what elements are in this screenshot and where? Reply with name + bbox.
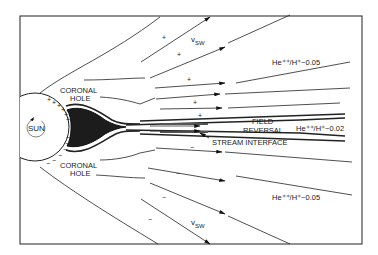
ratio-top-label: He⁺⁺/H⁺~0.05	[272, 58, 320, 67]
svg-text:+: +	[52, 99, 56, 106]
vsw-bottom-label: vSW	[191, 218, 205, 229]
stream-interface-label: STREAM INTERFACE	[212, 138, 287, 147]
svg-text:−: −	[63, 146, 67, 153]
svg-text:−: −	[58, 152, 62, 159]
ratio-bottom-label: He⁺⁺/H⁺~0.05	[272, 193, 320, 202]
coronal-hole-top-label-2: HOLE	[70, 94, 90, 103]
svg-text:−: −	[52, 157, 56, 164]
svg-text:−: −	[190, 144, 194, 151]
svg-text:+: +	[177, 51, 181, 58]
field-reversal-label: FIELD	[252, 117, 274, 126]
svg-text:+: +	[66, 116, 70, 123]
svg-text:−: −	[148, 216, 152, 223]
svg-text:+: +	[187, 76, 191, 83]
sun-label: SUN	[28, 124, 45, 133]
field-reversal-label-2: REVERSAL	[243, 126, 283, 135]
svg-text:+: +	[193, 99, 197, 106]
ratio-mid-label: He⁺⁺/H⁺~0.02	[296, 124, 344, 133]
helmet-streamer	[67, 108, 126, 146]
svg-text:−: −	[162, 194, 166, 201]
svg-text:+: +	[47, 96, 51, 103]
vsw-top-label: vSW	[191, 35, 205, 46]
solar-wind-diagram: + + + + + + + + + + + − − − − − − − − − …	[0, 0, 378, 255]
svg-text:−: −	[46, 160, 50, 167]
svg-text:+: +	[162, 34, 166, 41]
svg-text:−: −	[176, 170, 180, 177]
svg-text:+: +	[198, 112, 202, 119]
coronal-hole-bottom-label-2: HOLE	[70, 169, 90, 178]
negative-polarity-marks: − − − − − − − − − −	[46, 134, 194, 223]
